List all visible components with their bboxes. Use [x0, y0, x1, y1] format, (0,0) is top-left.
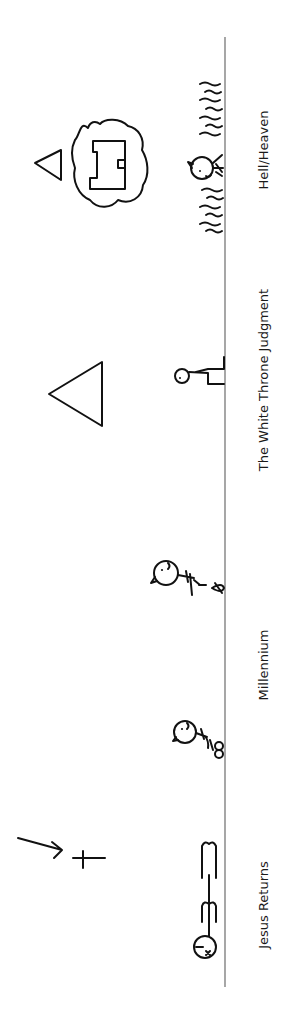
great-white-throne-triangle-icon	[49, 362, 102, 426]
cross-icon	[73, 851, 105, 868]
castle-icon	[90, 141, 125, 189]
resurrected-figure-2-icon	[173, 721, 223, 758]
timeline-diagram: Jesus Returns Millennium The White Thron…	[0, 0, 281, 1030]
heaven-cloud-icon	[72, 120, 147, 207]
figure-in-hell-icon	[188, 155, 223, 179]
stage-label-millennium: Millennium	[256, 629, 271, 700]
kneeling-figure-icon	[175, 357, 224, 384]
stage-label-jesus-returns: Jesus Returns	[256, 861, 271, 949]
triangle-small-icon	[35, 150, 61, 180]
dead-figure-icon	[194, 842, 216, 958]
stage-label-hell-heaven: Hell/Heaven	[256, 110, 271, 189]
stage-label-white-throne-judgment: The White Throne Judgment	[256, 289, 271, 471]
resurrected-figure-1-icon	[151, 561, 224, 595]
descending-arrow-icon	[18, 838, 62, 858]
